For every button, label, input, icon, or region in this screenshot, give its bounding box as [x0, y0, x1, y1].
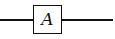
input-wire — [0, 19, 34, 21]
block-a: A — [33, 5, 62, 34]
diagram-canvas: A — [0, 0, 115, 39]
output-wire — [62, 19, 113, 21]
block-label: A — [41, 11, 53, 28]
